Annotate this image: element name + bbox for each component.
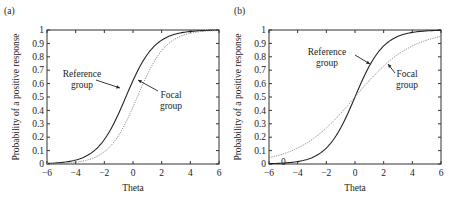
y-tick-label: 0.5 (32, 92, 44, 102)
x-tick-label: 6 (217, 168, 222, 178)
reference-group-curve (269, 30, 441, 163)
y-tick-label: 0.1 (32, 146, 44, 156)
x-tick-label: 4 (188, 168, 193, 178)
panel-label: (a) (4, 6, 15, 17)
y-tick-label: 0 (261, 159, 266, 169)
reference-group-annotation: Referencegroup (308, 47, 347, 68)
figure: (a)−6−4−2024600.10.20.30.40.50.60.70.80.… (0, 0, 454, 204)
x-tick-label: 4 (410, 168, 415, 178)
y-tick-label: 0.1 (254, 146, 266, 156)
y-tick-label: 0 (39, 159, 44, 169)
x-tick-label: −4 (293, 168, 303, 178)
y-tick-label: 0.4 (32, 106, 44, 116)
y-tick-label: 1 (261, 25, 266, 35)
focal-group-curve (47, 30, 219, 163)
y-tick-label: 0.8 (32, 52, 44, 62)
y-tick-label: 0.9 (254, 39, 266, 49)
y-tick-label: 0.3 (254, 119, 266, 129)
y-axis-label: Probability of a positive response (11, 33, 21, 160)
y-tick-label: 0.2 (32, 132, 44, 142)
x-tick-label: 0 (131, 168, 136, 178)
x-tick-label: −4 (71, 168, 81, 178)
y-tick-label: 1 (39, 25, 44, 35)
focal-group-annotation: Focalgroup (396, 69, 418, 90)
y-tick-label: 0.7 (32, 65, 44, 75)
x-tick-label: 6 (439, 168, 444, 178)
x-tick-label: −6 (264, 168, 274, 178)
chart-panel-a: (a)−6−4−2024600.10.20.30.40.50.60.70.80.… (4, 6, 222, 193)
chart-panel-b: (b)−6−4−2024600.10.20.30.40.50.60.70.80.… (233, 6, 444, 193)
reference-group-curve (47, 30, 219, 163)
y-axis-label: Probability of a positive response (233, 33, 243, 160)
x-tick-label: −2 (321, 168, 331, 178)
annotation-arrow (96, 80, 120, 88)
x-tick-label: 0 (353, 168, 358, 178)
y-tick-label: 0.7 (254, 65, 266, 75)
plot-frame (47, 30, 219, 164)
y-tick-label: 0.6 (254, 79, 266, 89)
y-tick-label: 0.8 (254, 52, 266, 62)
x-tick-label: 2 (381, 168, 386, 178)
y-tick-label: 0.2 (254, 132, 266, 142)
x-tick-label: −2 (99, 168, 109, 178)
stray-zero-marker: 0 (281, 157, 286, 167)
arrow-head-icon (116, 85, 120, 88)
y-tick-label: 0.9 (32, 39, 44, 49)
x-tick-label: 2 (159, 168, 164, 178)
panel-label: (b) (234, 6, 245, 17)
x-tick-label: −6 (42, 168, 52, 178)
x-axis-label: Theta (344, 183, 366, 193)
y-tick-label: 0.6 (32, 79, 44, 89)
y-tick-label: 0.3 (32, 119, 44, 129)
y-tick-label: 0.4 (254, 106, 266, 116)
x-axis-label: Theta (122, 183, 144, 193)
reference-group-annotation: Referencegroup (63, 69, 102, 90)
y-tick-label: 0.5 (254, 92, 266, 102)
focal-group-annotation: Focalgroup (160, 90, 182, 111)
